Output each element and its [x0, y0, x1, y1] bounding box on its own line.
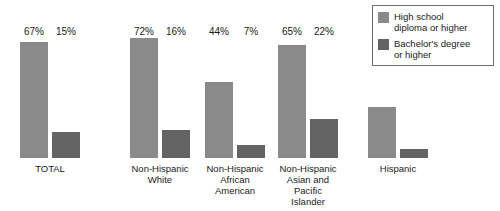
bar-value-non-hispanic-african-american-bachelors: 7% — [244, 26, 258, 37]
bar-non-hispanic-white-bachelors[interactable] — [162, 130, 190, 158]
bar-wrap-non-hispanic-african-american-high-school: 44% — [205, 38, 233, 158]
bar-wrap-non-hispanic-asian-pacific-islander-bachelors: 22% — [310, 38, 338, 158]
bar-value-non-hispanic-white-bachelors: 16% — [166, 26, 186, 37]
bar-value-non-hispanic-white-high-school: 72% — [134, 26, 154, 37]
bar-value-total-high-school: 67% — [24, 26, 44, 37]
group-label-non-hispanic-white: Non-Hispanic White — [117, 163, 203, 185]
bar-group-non-hispanic-asian-pacific-islander: 65% 22% Non-Hispanic Asian and Pacific I… — [272, 38, 344, 158]
legend-label-high-school: High school diploma or higher — [394, 11, 467, 33]
group-label-hispanic: Hispanic — [355, 163, 441, 174]
legend-item-bachelors[interactable]: Bachelor's degree or higher — [378, 38, 489, 60]
bar-non-hispanic-asian-pacific-islander-bachelors[interactable] — [310, 119, 338, 158]
bar-group-total: 67% 15% TOTAL — [14, 38, 86, 158]
bar-wrap-non-hispanic-white-bachelors: 16% — [162, 38, 190, 158]
legend-swatch-high-school-icon — [378, 12, 389, 23]
bar-wrap-total-high-school: 67% — [20, 38, 48, 158]
bar-wrap-non-hispanic-white-high-school: 72% — [130, 38, 158, 158]
bar-value-non-hispanic-african-american-high-school: 44% — [209, 26, 229, 37]
legend-label-bachelors: Bachelor's degree or higher — [394, 38, 470, 60]
bar-wrap-non-hispanic-asian-pacific-islander-high-school: 65% — [278, 38, 306, 158]
bar-hispanic-bachelors[interactable] — [400, 149, 428, 158]
bar-value-total-bachelors: 15% — [56, 26, 76, 37]
group-label-non-hispanic-asian-pacific-islander: Non-Hispanic Asian and Pacific Islander — [265, 163, 351, 207]
bar-value-non-hispanic-asian-pacific-islander-high-school: 65% — [282, 26, 302, 37]
bar-non-hispanic-african-american-bachelors[interactable] — [237, 145, 265, 158]
group-label-total: TOTAL — [7, 163, 93, 174]
legend-item-high-school[interactable]: High school diploma or higher — [378, 11, 489, 33]
bar-total-high-school[interactable] — [20, 42, 48, 158]
bar-wrap-non-hispanic-african-american-bachelors: 7% — [237, 38, 265, 158]
bar-group-non-hispanic-african-american: 44% 7% Non-Hispanic African American — [199, 38, 271, 158]
bar-group-non-hispanic-white: 72% 16% Non-Hispanic White — [124, 38, 196, 158]
bar-non-hispanic-asian-pacific-islander-high-school[interactable] — [278, 45, 306, 158]
bar-value-non-hispanic-asian-pacific-islander-bachelors: 22% — [314, 26, 334, 37]
bar-total-bachelors[interactable] — [52, 132, 80, 158]
bar-hispanic-high-school[interactable] — [368, 107, 396, 158]
bar-wrap-total-bachelors: 15% — [52, 38, 80, 158]
educational-attainment-bar-chart: 67% 15% TOTAL 72% 16% Non-Hispanic White — [0, 0, 500, 211]
bar-non-hispanic-african-american-high-school[interactable] — [205, 82, 233, 158]
legend-swatch-bachelors-icon — [378, 39, 389, 50]
chart-legend: High school diploma or higher Bachelor's… — [372, 5, 494, 66]
bar-non-hispanic-white-high-school[interactable] — [130, 38, 158, 158]
